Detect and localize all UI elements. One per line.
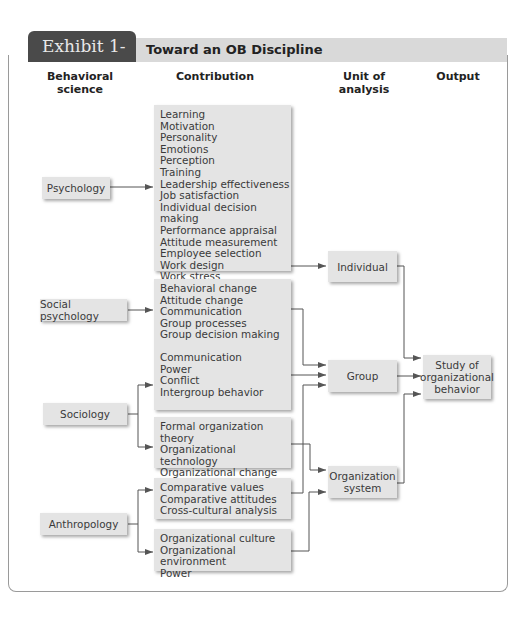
unit-individual: Individual [328, 251, 397, 282]
contribution-psychology: LearningMotivationPersonalityEmotionsPer… [154, 105, 291, 271]
science-social-psychology: Social psychology [40, 299, 127, 321]
contribution-social-psych-sociology: Behavioral changeAttitude changeCommunic… [154, 279, 291, 410]
contribution-anthropology-org: Organizational cultureOrganizational env… [154, 529, 291, 571]
science-psychology: Psychology [42, 177, 110, 199]
contribution-anthropology-group: Comparative valuesComparative attitudesC… [154, 478, 291, 519]
science-sociology: Sociology [43, 403, 127, 425]
contribution-sociology-group: CommunicationPowerConflictIntergroup beh… [160, 352, 291, 398]
science-anthropology: Anthropology [40, 513, 127, 535]
contribution-social-psychology: Behavioral changeAttitude changeCommunic… [160, 283, 291, 341]
output-study-of-ob: Study oforganizationalbehavior [423, 355, 491, 399]
unit-group: Group [328, 360, 397, 392]
contribution-sociology-org: Formal organization theoryOrganizational… [154, 417, 291, 468]
unit-organization-system: Organizationsystem [328, 466, 397, 498]
